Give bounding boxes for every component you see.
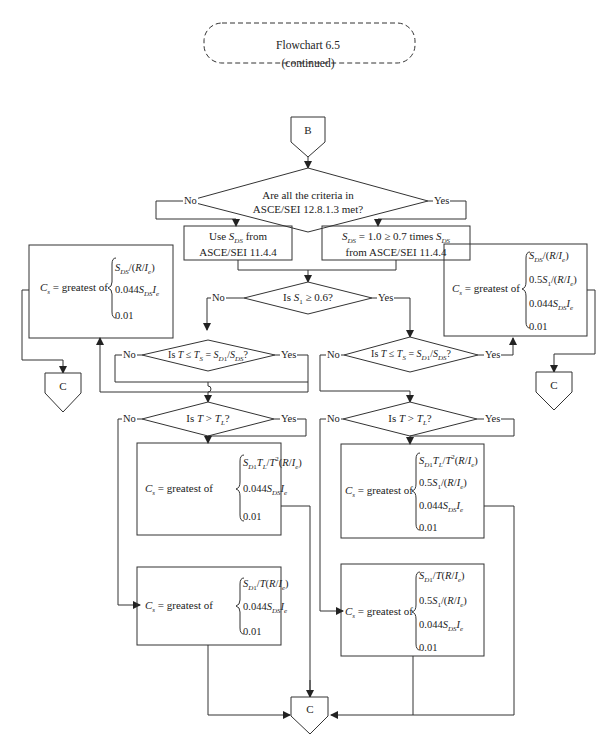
no-label-tl-right: No [326, 414, 341, 425]
cs-prefix-bot-right: Cs = greatest of [345, 605, 413, 620]
option-mid-right-2: 0.5S1/(R/Ie) [419, 477, 467, 491]
option-mid-left-3: 0.01 [243, 511, 261, 522]
decision-s1-text: Is S1 ≥ 0.6? [283, 291, 333, 307]
decision-tl-right-text: Is T > TL? [388, 412, 431, 428]
connector-c-left-label: C [59, 380, 66, 392]
option-mid-left-1: SD1TL/T2(R/Ie) [243, 455, 302, 471]
yes-label-tl-right: Yes [484, 414, 501, 425]
yes-label-s1: Yes [377, 293, 394, 304]
option-bot-right-1: SD1/T(R/Ie) [419, 570, 465, 584]
option-bot-right-4: 0.01 [419, 642, 437, 653]
no-label-ts-right: No [326, 350, 341, 361]
decision-tl-left-text: Is T > TL? [186, 412, 229, 428]
connector-c-left-shape [45, 373, 81, 412]
option-bot-left-1: SD1/T(R/Ie) [243, 578, 289, 592]
connector-c-right-shape [536, 372, 572, 410]
decision-ts-right-text: Is T ≤ TS = SD1/SDS? [371, 348, 451, 363]
yes-label-ts-right: Yes [484, 350, 501, 361]
option-top-left-3: 0.01 [115, 310, 133, 321]
no-label-tl-left: No [122, 414, 137, 425]
yes-label-criteria: Yes [433, 196, 450, 207]
option-top-left-2: 0.044SDSIe [115, 284, 159, 298]
flowchart-title: Flowchart 6.5 (continued) [276, 37, 340, 73]
option-mid-right-3: 0.044SDSIe [419, 500, 463, 514]
sds-limit-line2: from ASCE/SEI 11.4.4 [342, 246, 450, 260]
sds-limit-line1: SDS = 1.0 ≥ 0.7 times SDS [342, 230, 450, 246]
option-top-right-1: SDS/(R/Ie) [529, 250, 569, 264]
option-bot-left-3: 0.01 [243, 626, 261, 637]
no-label-s1: No [211, 293, 226, 304]
decision-criteria-line1: Are all the criteria in [253, 189, 363, 203]
decision-ts-left-text: Is T ≤ TS = SD1/SDS? [168, 349, 248, 364]
option-top-right-3: 0.044SDSIe [529, 298, 573, 312]
option-bot-right-3: 0.044SDSIe [419, 619, 463, 633]
cs-prefix-top-left: Cs = greatest of [40, 281, 108, 296]
option-top-right-2: 0.5S1/(R/Ie) [529, 274, 577, 288]
connector-c-right-label: C [550, 379, 557, 391]
cs-prefix-mid-left: Cs = greatest of [145, 482, 213, 497]
no-label-criteria: No [183, 196, 198, 207]
flowchart-canvas [0, 0, 616, 756]
use-sds-line1: Use SDS from [199, 230, 277, 246]
decision-criteria-line2: ASCE/SEI 12.8.1.3 met? [253, 203, 363, 217]
sds-limit-text: SDS = 1.0 ≥ 0.7 times SDS from ASCE/SEI … [342, 230, 450, 260]
option-bot-left-2: 0.044SDSIe [243, 601, 287, 615]
option-mid-right-1: SD1TL/T2(R/Ie) [419, 453, 478, 469]
connector-b-shape [291, 117, 325, 157]
connector-c-bottom-label: C [306, 703, 313, 715]
title-line-2: (continued) [276, 55, 340, 73]
cs-prefix-top-right: Cs = greatest of [452, 282, 520, 297]
option-top-right-4: 0.01 [529, 321, 547, 332]
option-bot-right-2: 0.5S1/(R/Ie) [419, 595, 467, 609]
yes-label-ts-left: Yes [280, 350, 297, 361]
use-sds-text: Use SDS from ASCE/SEI 11.4.4 [199, 230, 277, 260]
cs-prefix-mid-right: Cs = greatest of [345, 484, 413, 499]
title-line-1: Flowchart 6.5 [276, 37, 340, 55]
option-mid-right-4: 0.01 [419, 522, 437, 533]
use-sds-line2: ASCE/SEI 11.4.4 [199, 246, 277, 260]
option-top-left-1: SDS/(R/Ie) [115, 262, 155, 276]
cs-prefix-bot-left: Cs = greatest of [145, 599, 213, 614]
option-mid-left-2: 0.044SDSIe [243, 483, 287, 497]
yes-label-tl-left: Yes [280, 414, 297, 425]
decision-criteria: Are all the criteria in ASCE/SEI 12.8.1.… [253, 189, 363, 217]
no-label-ts-left: No [122, 350, 137, 361]
connector-b-label: B [304, 124, 311, 136]
